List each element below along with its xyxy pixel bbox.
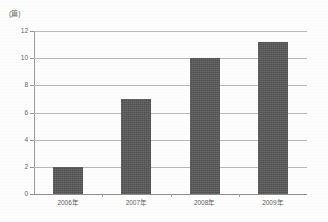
- y-axis-tick-label-wrap: 8: [2, 81, 28, 88]
- plot-area: [34, 31, 307, 194]
- y-axis-tick-label-wrap: 10: [2, 54, 28, 61]
- y-axis-unit-label: (篇): [9, 9, 21, 18]
- x-axis-tick: [239, 194, 240, 197]
- x-axis-tick-label: 2009年: [243, 199, 303, 207]
- bar: [53, 167, 83, 194]
- y-axis-tick-label: 0: [6, 190, 28, 197]
- y-axis-tick-label: 6: [6, 109, 28, 116]
- y-axis-tick-label: 10: [6, 54, 28, 61]
- bar: [258, 42, 288, 194]
- y-axis-tick-label-wrap: 2: [2, 163, 28, 170]
- x-axis-tick: [171, 194, 172, 197]
- bar: [121, 99, 151, 194]
- x-axis-tick: [102, 194, 103, 197]
- y-axis-tick-label-wrap: 4: [2, 136, 28, 143]
- bar: [190, 58, 220, 194]
- x-axis-tick-label: 2008年: [175, 199, 235, 207]
- y-axis-tick: [30, 194, 34, 195]
- y-axis-tick-label-wrap: 12: [2, 27, 28, 34]
- y-axis-tick-label-wrap: 6: [2, 109, 28, 116]
- bar-chart: (篇) 024681012 2006年2007年2008年2009年: [0, 0, 328, 222]
- x-axis-tick-label: 2006年: [38, 199, 98, 207]
- y-axis-tick-label: 4: [6, 136, 28, 143]
- y-axis-tick-label: 2: [6, 163, 28, 170]
- y-axis-tick-label: 12: [6, 27, 28, 34]
- x-axis-tick-label: 2007年: [106, 199, 166, 207]
- y-axis-tick-label: 8: [6, 81, 28, 88]
- y-axis-tick-label-wrap: 0: [2, 190, 28, 197]
